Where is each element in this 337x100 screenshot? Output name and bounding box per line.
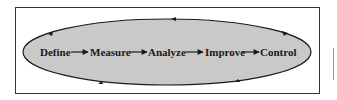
step-measure: Measure bbox=[90, 46, 131, 58]
step-control: Control bbox=[260, 46, 296, 58]
step-define: Define bbox=[40, 46, 71, 58]
dmaic-cycle-diagram: Define Measure Analyze Improve Control bbox=[0, 0, 337, 100]
step-improve: Improve bbox=[205, 46, 245, 58]
edge-divider bbox=[333, 48, 334, 80]
step-analyze: Analyze bbox=[148, 46, 186, 58]
